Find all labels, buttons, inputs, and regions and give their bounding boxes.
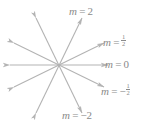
label-slope-negative-one-half-equals: = <box>111 85 117 97</box>
label-slope-0: m=0 <box>105 59 129 70</box>
fraction-negative-one-half: 12 <box>126 83 130 98</box>
label-slope-negative-2: m=−2 <box>62 110 92 121</box>
label-slope-negative-2-variable: m <box>62 109 70 121</box>
label-slope-one-half-variable: m <box>103 36 111 48</box>
label-slope-negative-one-half: m=−12 <box>101 83 130 98</box>
label-slope-negative-2-value: −2 <box>80 109 92 121</box>
label-slope-one-half-equals: = <box>113 36 119 48</box>
label-slope-one-half: m=12 <box>103 34 126 49</box>
label-slope-2-equals: = <box>79 5 85 17</box>
fraction-one-half: 12 <box>121 34 125 49</box>
fraction-one-half-denominator: 2 <box>121 41 125 48</box>
label-slope-0-value: 0 <box>123 58 129 70</box>
label-slope-2-value: 2 <box>87 5 93 17</box>
label-slope-2-variable: m <box>69 5 77 17</box>
fraction-negative-one-half-denominator: 2 <box>126 90 130 97</box>
label-slope-negative-one-half-sign: − <box>119 85 125 97</box>
label-slope-2: m=2 <box>69 6 93 17</box>
label-slope-0-equals: = <box>115 58 121 70</box>
label-slope-negative-one-half-variable: m <box>101 85 109 97</box>
label-slope-negative-2-equals: = <box>72 109 78 121</box>
label-slope-0-variable: m <box>105 58 113 70</box>
